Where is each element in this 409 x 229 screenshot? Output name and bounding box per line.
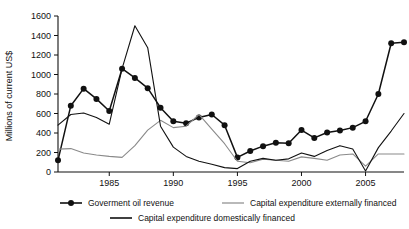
data-point-marker — [401, 39, 407, 45]
data-point-marker — [260, 143, 266, 149]
y-tick-label: 1200 — [31, 50, 51, 60]
data-point-marker — [273, 140, 279, 146]
data-point-marker — [132, 75, 138, 81]
y-tick-label: 1000 — [31, 70, 51, 80]
y-tick-label: 400 — [36, 128, 51, 138]
data-point-marker — [363, 118, 369, 124]
data-point-marker — [170, 118, 176, 124]
data-point-marker — [81, 86, 87, 92]
data-point-marker — [158, 105, 164, 111]
data-series — [55, 26, 407, 171]
x-tick-label: 1995 — [227, 178, 247, 188]
x-tick-label: 1985 — [99, 178, 119, 188]
legend-item: Goverment oil revenue — [60, 198, 174, 208]
y-tick-label: 600 — [36, 109, 51, 119]
legend-label: Capital expenditure externally financed — [250, 198, 397, 208]
x-tick-label: 2005 — [356, 178, 376, 188]
data-point-marker — [55, 157, 61, 163]
y-axis-ticks: 02004006008001000120014001600 — [31, 11, 58, 177]
data-point-marker — [93, 96, 99, 102]
x-axis-ticks: 19851990199520002005 — [99, 172, 375, 188]
legend-item: Capital expenditure externally financed — [222, 198, 397, 208]
y-axis-title-text: Millions of current US$ — [4, 51, 14, 142]
data-point-marker — [388, 40, 394, 46]
data-point-marker — [145, 85, 151, 91]
legend-label: Goverment oil revenue — [88, 198, 174, 208]
line-chart: Millions of current US$ 0200400600800100… — [0, 0, 409, 229]
data-point-marker — [350, 125, 356, 131]
data-point-marker — [222, 122, 228, 128]
data-point-marker — [375, 91, 381, 97]
data-point-marker — [68, 103, 74, 109]
chart-page: Millions of current US$ 0200400600800100… — [0, 0, 409, 229]
legend-label: Capital expenditure domestically finance… — [138, 213, 295, 223]
data-point-marker — [337, 128, 343, 134]
y-tick-label: 800 — [36, 89, 51, 99]
data-point-marker — [247, 148, 253, 154]
legend-item: Capital expenditure domestically finance… — [110, 213, 295, 223]
y-tick-label: 1600 — [31, 11, 51, 21]
data-point-marker — [183, 120, 189, 126]
y-tick-label: 0 — [46, 167, 51, 177]
y-tick-label: 1400 — [31, 31, 51, 41]
series-line-0 — [58, 42, 404, 160]
x-tick-label: 1990 — [163, 178, 183, 188]
data-point-marker — [311, 135, 317, 141]
y-axis-title: Millions of current US$ — [4, 51, 14, 142]
data-point-marker — [298, 127, 304, 133]
y-tick-label: 200 — [36, 148, 51, 158]
data-point-marker — [286, 140, 292, 146]
data-point-marker — [324, 130, 330, 136]
data-point-marker — [209, 111, 215, 117]
x-tick-label: 2000 — [291, 178, 311, 188]
data-point-marker — [234, 154, 240, 160]
chart-legend: Goverment oil revenueCapital expenditure… — [60, 198, 397, 223]
legend-swatch-marker — [68, 200, 74, 206]
series-line-2 — [58, 26, 404, 171]
